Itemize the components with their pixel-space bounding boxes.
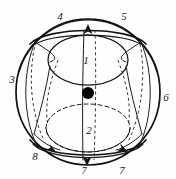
top-arrowhead [84,24,93,34]
label-4: 4 [57,10,63,22]
label-region-2: 2 [86,124,92,136]
label-7-right: 7 [119,164,125,176]
label-5: 5 [121,10,127,22]
label-6: 6 [163,91,169,103]
label-7-center: 7 [82,165,88,176]
label-region-1: 1 [83,54,89,66]
label-8: 8 [32,150,38,162]
sphere-topology-diagram: 1 2 3 4 5 6 7 7 8 [0,0,176,179]
figure-root: 1 2 3 4 5 6 7 7 8 [0,0,176,179]
center-dot [82,87,94,99]
label-3: 3 [8,73,15,85]
